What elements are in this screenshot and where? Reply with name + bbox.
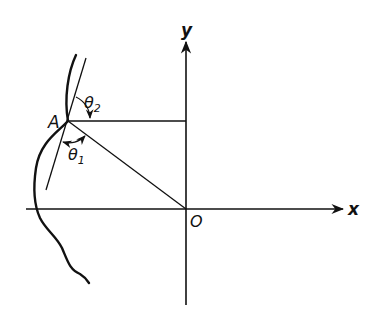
point-a-label: A — [47, 112, 60, 132]
curve — [34, 55, 89, 283]
diagram-canvas: A θ2 θ1 y x O — [0, 0, 376, 310]
theta2-label: θ2 — [84, 93, 101, 115]
origin-label: O — [190, 212, 203, 231]
line-a-to-origin — [68, 121, 186, 209]
x-axis-label: x — [347, 199, 360, 219]
y-axis-label: y — [181, 20, 193, 40]
theta1-label: θ1 — [68, 145, 85, 167]
angle-arc-theta1 — [63, 136, 85, 143]
